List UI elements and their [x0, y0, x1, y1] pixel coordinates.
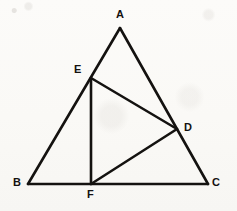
- vertex-label-C: C: [212, 177, 220, 188]
- segment-AC: [120, 28, 208, 184]
- vertex-label-E: E: [74, 64, 81, 75]
- segment-ED: [91, 78, 177, 129]
- segment-FD: [91, 129, 177, 184]
- segment-AB: [28, 28, 120, 184]
- geometry-figure: A B C D E F: [0, 0, 237, 211]
- figure-canvas: [0, 0, 237, 211]
- vertex-label-F: F: [87, 189, 94, 200]
- vertex-label-A: A: [116, 9, 124, 20]
- vertex-label-D: D: [184, 122, 192, 133]
- vertex-label-B: B: [13, 177, 21, 188]
- segment-layer: [28, 28, 208, 184]
